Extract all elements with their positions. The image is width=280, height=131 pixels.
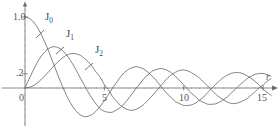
x-tick-label-15: 15 (257, 93, 267, 103)
x-axis-label: r (266, 72, 270, 82)
curve-label-j1-sub: 1 (70, 33, 74, 42)
x-tick-label-10: 10 (179, 93, 189, 103)
x-tick-label-0: 0 (19, 93, 24, 103)
y-tick-label-0.2: .2 (16, 68, 24, 78)
x-tick-label-5: 5 (102, 93, 107, 103)
plot-canvas (0, 0, 280, 131)
curve-label-j2: J2 (95, 44, 103, 55)
curve-label-j1: J1 (66, 28, 74, 39)
curve-label-j0-sub: 0 (49, 16, 53, 25)
curve-label-j2-sub: 2 (99, 49, 103, 58)
y-tick-label-1.0: 1.0 (13, 12, 26, 22)
curve-label-j0: J0 (45, 11, 53, 22)
bessel-function-plot: 1.0 .2 0 5 10 15 r J0 J1 J2 (0, 0, 280, 131)
